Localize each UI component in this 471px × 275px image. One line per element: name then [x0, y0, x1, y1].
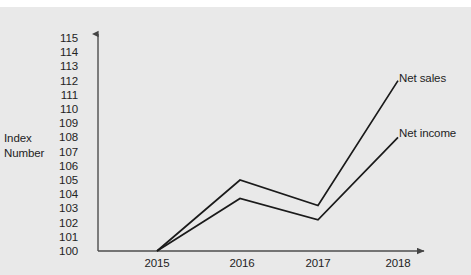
chart-plot-area: [0, 0, 471, 275]
data-line-net-income: [157, 137, 398, 251]
data-line-net-sales: [157, 81, 398, 251]
chart-container: 115 114 113 112 111 110 109 108 107 106 …: [0, 0, 471, 275]
